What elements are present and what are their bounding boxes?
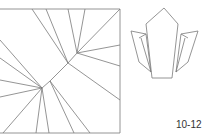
folded-model [0,0,208,136]
figure-label: 10-12 [176,119,202,130]
